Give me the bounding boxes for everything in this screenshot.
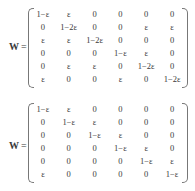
matrix-cell: 0 [82,168,108,181]
matrix-cell: 0 [30,142,56,155]
matrix-cell: 0 [30,21,56,34]
matrix-cell: 0 [56,129,82,142]
matrix-cell: 1−2ε [82,34,108,47]
matrix-cell: 0 [82,47,108,60]
matrix-cell: 1−ε [108,142,134,155]
matrix-cell: ε [133,21,159,34]
matrix-cell: ε [56,60,82,73]
equation-lhs: W= [9,41,27,52]
matrix-cell: 0 [133,168,159,181]
matrix-cell: 0 [108,155,134,168]
matrix-symbol: W [9,140,19,151]
equation-lhs: W= [9,140,27,151]
matrix-cell: 1−ε [133,155,159,168]
equals-sign: = [21,140,27,151]
matrix-cell: 0 [108,8,134,21]
right-paren [182,103,188,183]
matrix-cell: ε [133,142,159,155]
matrix-2: 1−ε ε 0 0 0 0 0 1−ε ε 0 0 0 0 0 1−ε ε 0 … [30,103,185,181]
matrix-cell: 0 [30,60,56,73]
matrix-cell: 0 [133,73,159,86]
matrix-cell: 0 [56,142,82,155]
matrix-cell: 0 [108,168,134,181]
matrix-cell: 1−ε [108,47,134,60]
matrix-cell: 1−ε [56,116,82,129]
matrix-cell: 0 [108,21,134,34]
matrix-cell: 0 [108,60,134,73]
matrix-cell: 0 [82,73,108,86]
matrix-cell: 0 [108,116,134,129]
matrix-cell: 0 [30,129,56,142]
matrix-cell: 0 [82,8,108,21]
equation-2: W= 1−ε ε 0 0 0 0 0 1−ε ε 0 0 0 0 0 1−ε ε… [0,95,195,191]
matrix-cell: 0 [30,116,56,129]
matrix-cell: ε [56,34,82,47]
matrix-cell: 0 [108,103,134,116]
matrix-cell: ε [56,103,82,116]
matrix-cell: 0 [56,155,82,168]
matrix-cell: 0 [133,103,159,116]
matrix-cell: 1−ε [30,8,56,21]
matrix-cell: ε [108,73,134,86]
matrix-cell: ε [30,168,56,181]
matrix-cell: 0 [82,21,108,34]
matrix-cell: 0 [30,47,56,60]
matrix-cell: 0 [133,116,159,129]
matrix-cell: 1−2ε [133,60,159,73]
matrix-cell: 0 [133,129,159,142]
matrix-cell: 0 [133,8,159,21]
matrix-cell: 0 [82,142,108,155]
matrix-cell: 0 [108,34,134,47]
matrix-cell: 0 [82,155,108,168]
right-paren [182,8,188,88]
matrix-cell: ε [133,47,159,60]
equation-1: W= 1−ε ε 0 0 0 0 0 1−2ε 0 0 ε ε ε ε 1−2ε… [0,0,195,95]
matrix-cell: 1−ε [82,129,108,142]
matrix-cell: ε [56,8,82,21]
matrix-cell: ε [82,60,108,73]
matrix-cell: ε [82,116,108,129]
matrix-1: 1−ε ε 0 0 0 0 0 1−2ε 0 0 ε ε ε ε 1−2ε 0 … [30,8,185,86]
matrix-cell: 0 [56,47,82,60]
equals-sign: = [21,41,27,52]
matrix-cell: 0 [56,168,82,181]
matrix-cell: 0 [82,103,108,116]
matrix-cell: ε [30,34,56,47]
matrix-cell: ε [30,73,56,86]
matrix-cell: 1−ε [30,103,56,116]
matrix-cell: 0 [133,34,159,47]
matrix-cell: 0 [30,155,56,168]
matrix-cell: 0 [56,73,82,86]
matrix-cell: 1−2ε [56,21,82,34]
matrix-symbol: W [9,41,19,52]
matrix-cell: ε [108,129,134,142]
